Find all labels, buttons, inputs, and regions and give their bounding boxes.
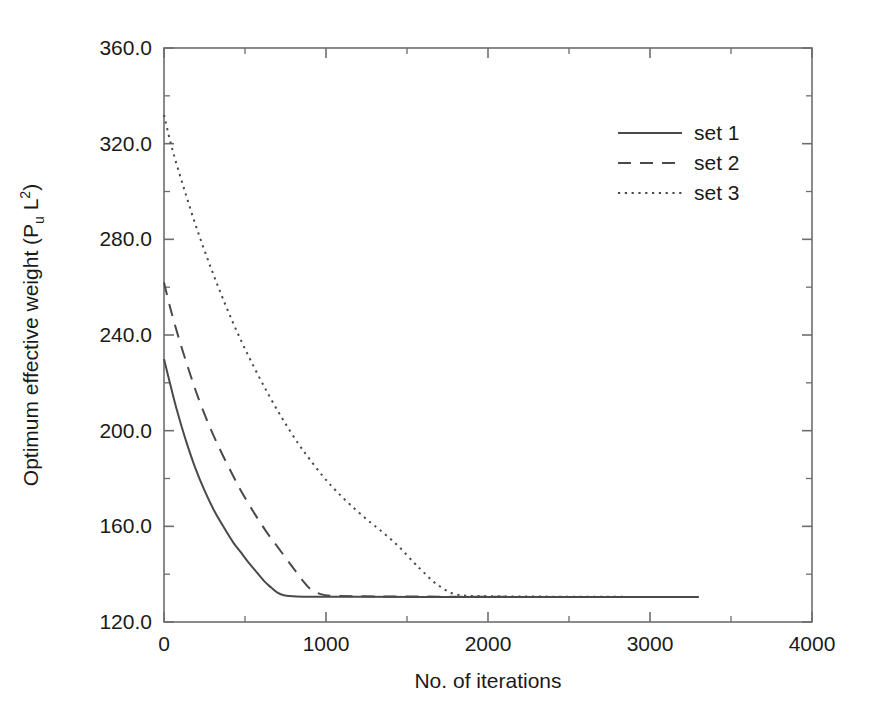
series-line-set-3 [164, 115, 699, 597]
y-tick-label: 160.0 [99, 514, 152, 537]
y-axis-tick-labels: 120.0160.0200.0240.0280.0320.0360.0 [99, 36, 152, 633]
y-tick-label: 320.0 [99, 132, 152, 155]
y-axis-title-mid: L [19, 199, 42, 217]
y-axis-title-end: ) [19, 184, 42, 191]
series-line-set-2 [164, 282, 699, 597]
x-tick-label: 3000 [627, 632, 674, 655]
y-axis-title: Optimum effective weight (Pu L2) [17, 184, 47, 486]
chart-figure: 01000200030004000 120.0160.0200.0240.028… [0, 0, 876, 723]
y-tick-label: 120.0 [99, 610, 152, 633]
y-axis-title-superscript: 2 [17, 191, 33, 199]
legend: set 1set 2set 3 [618, 121, 740, 204]
y-tick-label: 360.0 [99, 36, 152, 59]
x-axis-title: No. of iterations [414, 669, 561, 692]
y-tick-label: 280.0 [99, 227, 152, 250]
y-tick-label: 200.0 [99, 419, 152, 442]
legend-label-set-3: set 3 [694, 181, 740, 204]
y-axis-title-main: Optimum effective weight (P [19, 224, 42, 486]
x-axis-tick-labels: 01000200030004000 [158, 632, 835, 655]
legend-label-set-2: set 2 [694, 151, 740, 174]
x-tick-label: 1000 [303, 632, 350, 655]
x-tick-label: 0 [158, 632, 170, 655]
y-tick-label: 240.0 [99, 323, 152, 346]
legend-label-set-1: set 1 [694, 121, 740, 144]
line-chart: 01000200030004000 120.0160.0200.0240.028… [0, 0, 876, 723]
series-line-set-1 [164, 359, 699, 597]
x-tick-label: 4000 [789, 632, 836, 655]
data-series-group [164, 115, 699, 597]
y-axis-title-subscript: u [31, 216, 47, 224]
x-tick-label: 2000 [465, 632, 512, 655]
